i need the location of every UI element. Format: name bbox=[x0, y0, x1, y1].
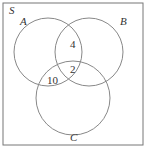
venn-diagram: S A B C 4 2 10 bbox=[0, 0, 146, 148]
set-label-a: A bbox=[19, 15, 27, 27]
region-ac: 10 bbox=[47, 74, 59, 86]
region-ab: 4 bbox=[70, 38, 76, 50]
set-label-c: C bbox=[70, 131, 78, 143]
region-abc: 2 bbox=[70, 63, 76, 75]
set-label-b: B bbox=[120, 15, 127, 27]
universe-label: S bbox=[9, 4, 15, 16]
circle-b bbox=[55, 18, 123, 86]
